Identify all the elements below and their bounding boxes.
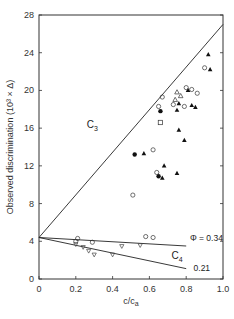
- triangle-marker: [189, 103, 194, 107]
- y-tick-label: 0: [29, 274, 34, 284]
- triangle-marker: [208, 67, 213, 71]
- triangle-open-marker: [173, 97, 178, 101]
- y-tick-label: 24: [24, 48, 34, 58]
- curve-label-subscript: 3: [94, 125, 98, 132]
- triangle-marker: [182, 138, 187, 142]
- triangle-marker: [175, 108, 180, 112]
- circle-filled-marker: [158, 109, 162, 113]
- y-tick-label: 16: [24, 123, 34, 133]
- x-tick-label: 0.8: [180, 284, 193, 294]
- triangle-down-marker: [111, 253, 115, 257]
- triangle-down-marker: [87, 249, 91, 253]
- triangle-marker: [142, 151, 147, 155]
- y-tick-label: 4: [29, 236, 34, 246]
- data-points: [74, 52, 213, 257]
- y-tick-label: 12: [24, 161, 34, 171]
- circle-open-marker: [190, 87, 194, 91]
- circle-open-marker: [184, 86, 188, 90]
- y-axis-title: Observed discrimination (10³ × Δ): [5, 80, 15, 214]
- x-axis-title: c/ca: [123, 296, 139, 307]
- triangle-marker: [206, 52, 211, 56]
- x-tick-label: 0.2: [70, 284, 83, 294]
- triangle-open-marker: [175, 90, 180, 94]
- circle-open-marker: [182, 104, 186, 108]
- circle-open-marker: [157, 104, 161, 108]
- x-tick-label: 0.6: [143, 284, 156, 294]
- circle-open-marker: [195, 91, 199, 95]
- phi-label: 0.21: [194, 263, 211, 273]
- curve-label-subscript: 4: [179, 256, 183, 263]
- phi-label: Φ = 0.34: [190, 233, 223, 243]
- circle-open-marker: [171, 102, 175, 106]
- y-tick-label: 20: [24, 85, 34, 95]
- circle-open-marker: [155, 170, 159, 174]
- x-tick-label: 0: [36, 284, 41, 294]
- circle-open-marker: [144, 234, 148, 238]
- circle-filled-marker: [132, 152, 136, 156]
- triangle-down-marker: [120, 245, 124, 249]
- circle-open-marker: [131, 193, 135, 197]
- square-open-marker: [158, 120, 162, 124]
- triangle-marker: [177, 127, 182, 131]
- circle-open-marker: [151, 148, 155, 152]
- y-tick-label: 8: [29, 199, 34, 209]
- x-tick-label: 0.4: [106, 284, 119, 294]
- annotations: C3C4Φ = 0.340.21: [87, 119, 223, 273]
- circle-open-marker: [203, 66, 207, 70]
- triangle-marker: [175, 171, 180, 175]
- triangle-marker: [162, 163, 167, 167]
- trend-lines: [39, 24, 223, 268]
- trend-line: [39, 24, 223, 237]
- curve-label: C3: [87, 119, 98, 132]
- triangle-down-marker: [138, 244, 142, 248]
- x-axis-title-subscript: a: [135, 300, 139, 307]
- circle-open-marker: [151, 235, 155, 239]
- x-tick-label: 1.0: [217, 284, 230, 294]
- y-tick-label: 28: [24, 10, 34, 20]
- curve-label: C4: [171, 250, 182, 263]
- triangle-down-marker: [92, 253, 96, 257]
- chart-canvas: 00.20.40.60.81.00481216202428 C3C4Φ = 0.…: [0, 0, 234, 319]
